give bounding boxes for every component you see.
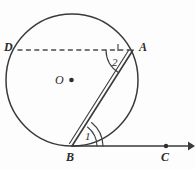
- point-label-o: O: [55, 74, 64, 86]
- point-label-c: C: [161, 151, 169, 163]
- point-label-a: A: [139, 41, 147, 53]
- point-label-b: B: [66, 151, 74, 163]
- geometry-canvas: [0, 0, 195, 170]
- tangent-arrowhead: [188, 142, 195, 151]
- chord-ab: [72, 50, 133, 146]
- point-label-d: D: [4, 41, 13, 53]
- angle-label-1: 1: [85, 131, 91, 142]
- chord-ab-edge: [70, 51, 129, 144]
- center-point-dot: [69, 78, 74, 83]
- geometry-figure: D A B C O 1 2: [0, 0, 195, 170]
- point-c-dot: [164, 144, 168, 148]
- angle-label-2: 2: [112, 57, 118, 68]
